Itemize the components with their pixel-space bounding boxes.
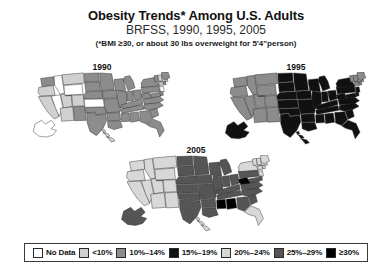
legend-item-label: 25%–29%	[287, 248, 322, 257]
state-la	[302, 122, 317, 131]
legend-item: No Data	[33, 248, 75, 258]
state-sd	[177, 166, 194, 177]
legend-item: 15%–19%	[169, 248, 217, 258]
map-year-label-1990: 1990	[18, 62, 186, 72]
state-sd	[278, 82, 294, 92]
state-ia	[296, 91, 312, 100]
state-in	[321, 92, 328, 103]
legend-item-label: 20%–24%	[234, 248, 269, 257]
state-ks	[278, 100, 299, 109]
map-year-label-1995: 1995	[208, 62, 384, 72]
state-ak	[225, 122, 249, 139]
legend-item-label: <10%	[92, 248, 112, 257]
state-ri	[163, 81, 166, 84]
state-ar	[301, 114, 315, 123]
state-ct	[354, 82, 359, 86]
state-ak	[122, 207, 147, 225]
state-al	[226, 198, 237, 209]
page-footnote: (*BMI ≥30, or about 30 lbs overweight fo…	[0, 38, 392, 49]
us-choropleth-map	[208, 72, 384, 146]
state-ar	[201, 199, 216, 208]
state-hi	[102, 130, 115, 143]
state-ms	[121, 113, 130, 122]
us-choropleth-map	[108, 155, 284, 233]
state-ia	[102, 90, 117, 98]
state-ct	[159, 82, 164, 86]
state-la	[202, 208, 218, 218]
state-ne	[277, 92, 297, 100]
state-hi	[196, 217, 210, 231]
state-de	[160, 91, 163, 96]
page-title: Obesity Trends* Among U.S. Adults	[0, 8, 392, 23]
state-wy	[64, 84, 83, 95]
state-nj	[160, 86, 165, 91]
state-oh	[133, 90, 142, 101]
state-az	[151, 193, 166, 209]
legend-swatch-icon	[221, 248, 231, 258]
legend-item: 20%–24%	[221, 248, 269, 258]
state-or	[38, 85, 55, 96]
legend-swatch-icon	[326, 248, 336, 258]
state-mt	[62, 73, 84, 85]
legend-item-label: ≥30%	[339, 248, 359, 257]
legend-swatch-icon	[274, 248, 284, 258]
state-ar	[107, 112, 121, 120]
legend-item: 10%–14%	[116, 248, 164, 258]
state-nj	[258, 171, 263, 177]
state-or	[127, 170, 146, 182]
state-mn	[100, 73, 114, 91]
state-mn	[294, 73, 309, 91]
state-nm	[73, 106, 86, 120]
state-ct	[257, 166, 263, 170]
state-ms	[316, 114, 325, 123]
state-nd	[278, 73, 293, 83]
state-ri	[262, 165, 265, 169]
legend-swatch-icon	[169, 248, 179, 258]
state-ne	[176, 176, 197, 185]
figure-root: Obesity Trends* Among U.S. Adults BRFSS,…	[0, 0, 392, 268]
legend-swatch-icon	[116, 248, 126, 258]
legend-item: <10%	[79, 248, 112, 258]
map-year-label-2005: 2005	[108, 145, 284, 155]
state-oh	[328, 90, 337, 101]
state-ne	[83, 91, 103, 99]
state-al	[130, 112, 140, 122]
state-oh	[230, 174, 240, 186]
legend-item-label: 10%–14%	[129, 248, 164, 257]
map-panel-1990: 1990	[18, 62, 186, 142]
us-choropleth-map	[18, 72, 186, 144]
state-nd	[177, 156, 193, 166]
state-nj	[355, 87, 360, 92]
state-ks	[177, 184, 199, 193]
legend-swatch-icon	[79, 248, 89, 258]
legend-swatch-icon	[33, 248, 43, 258]
state-ks	[84, 99, 104, 107]
state-in	[127, 91, 134, 101]
state-wy	[155, 168, 176, 180]
state-nd	[84, 73, 99, 82]
map-panel-2005: 2005	[108, 145, 284, 233]
state-nm	[266, 107, 279, 122]
state-la	[108, 121, 123, 130]
state-or	[230, 86, 248, 97]
state-mt	[153, 156, 177, 169]
legend-item-label: No Data	[46, 248, 75, 257]
state-al	[325, 113, 335, 124]
map-panel-1995: 1995	[208, 62, 384, 142]
legend-item: ≥30%	[326, 248, 359, 258]
state-ia	[196, 175, 213, 184]
state-de	[356, 92, 359, 97]
state-ak	[33, 120, 56, 137]
title-block: Obesity Trends* Among U.S. Adults BRFSS,…	[0, 8, 392, 49]
state-ri	[359, 82, 362, 85]
state-sd	[85, 82, 101, 92]
state-mt	[255, 73, 278, 85]
legend: No Data<10%10%–14%15%–19%20%–24%25%–29%≥…	[24, 243, 368, 262]
legend-item-label: 15%–19%	[182, 248, 217, 257]
state-az	[253, 108, 267, 123]
state-ms	[217, 199, 227, 209]
legend-item: 25%–29%	[274, 248, 322, 258]
state-hi	[296, 131, 309, 144]
state-de	[259, 176, 263, 181]
page-subtitle: BRFSS, 1990, 1995, 2005	[0, 23, 392, 38]
